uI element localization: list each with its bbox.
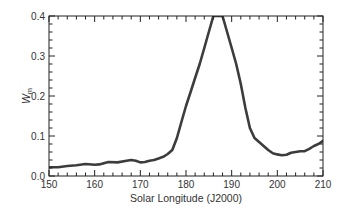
y-tick-label: 0.4	[31, 11, 45, 22]
y-tick-label: 0.0	[31, 171, 45, 182]
x-axis-title: Solar Longitude (J2000)	[130, 192, 242, 204]
x-tick-label: 190	[223, 179, 240, 190]
series-layer	[49, 16, 323, 167]
x-tick-label: 210	[315, 179, 332, 190]
y-axis-title: Wm	[20, 88, 34, 104]
y-tick-label: 0.3	[31, 51, 45, 62]
y-axis-title-subscript: m	[25, 88, 34, 94]
y-tick-label: 0.1	[31, 131, 45, 142]
chart: 1501601701801902002100.00.10.20.30.4 Sol…	[0, 0, 344, 214]
tick-labels-layer: 1501601701801902002100.00.10.20.30.4	[31, 11, 332, 191]
series-line-wm	[49, 16, 323, 167]
plot-frame	[49, 16, 323, 176]
x-tick-label: 180	[178, 179, 195, 190]
ticks-layer	[49, 16, 323, 176]
x-tick-label: 170	[132, 179, 149, 190]
x-tick-label: 200	[269, 179, 286, 190]
x-tick-label: 160	[86, 179, 103, 190]
